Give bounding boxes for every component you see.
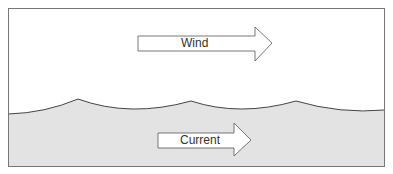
wind-current-diagram <box>0 0 393 174</box>
wind-label: Wind <box>181 37 208 49</box>
current-label: Current <box>180 134 220 146</box>
